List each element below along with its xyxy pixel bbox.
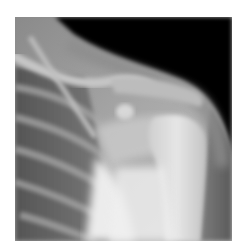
solid-arrow-left-icon <box>198 169 232 241</box>
xray-image <box>15 17 232 241</box>
